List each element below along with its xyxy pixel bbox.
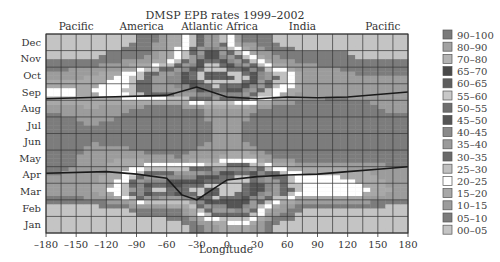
heat-cell (235, 129, 243, 133)
heat-cell (227, 167, 235, 171)
heat-cell (182, 117, 190, 121)
heat-cell (114, 117, 122, 121)
heat-cell (84, 134, 92, 138)
heat-cell (400, 38, 408, 42)
heat-cell (385, 51, 393, 55)
heat-cell (144, 163, 152, 167)
heat-cell (167, 109, 175, 113)
heat-cell (144, 96, 152, 100)
heat-cell (310, 158, 318, 162)
heat-cell (121, 129, 129, 133)
heat-cell (106, 192, 114, 196)
heat-cell (340, 138, 348, 142)
heat-cell (378, 104, 386, 108)
heat-cell (265, 138, 273, 142)
heat-cell (167, 104, 175, 108)
heat-cell (61, 113, 69, 117)
heat-cell (280, 59, 288, 63)
heat-cell (295, 42, 303, 46)
epb-rate-chart: DMSP EPB rates 1999–2002 PacificAmericaA… (0, 0, 500, 262)
heat-cell (348, 175, 356, 179)
heat-cell (212, 208, 220, 212)
heat-cell (325, 158, 333, 162)
heat-cell (84, 71, 92, 75)
heat-cell (99, 104, 107, 108)
heat-cell (355, 129, 363, 133)
heat-cell (265, 75, 273, 79)
heat-cell (325, 75, 333, 79)
heat-cell (325, 104, 333, 108)
heat-cell (129, 59, 137, 63)
heat-cell (272, 42, 280, 46)
heat-cell (295, 187, 303, 191)
heat-cell (287, 216, 295, 220)
heat-cell (182, 163, 190, 167)
heat-cell (235, 142, 243, 146)
heat-cell (355, 42, 363, 46)
heat-cell (84, 187, 92, 191)
heat-cell (212, 167, 220, 171)
heat-cell (385, 84, 393, 88)
heat-cell (400, 129, 408, 133)
heat-cell (182, 200, 190, 204)
heat-cell (393, 46, 401, 50)
heat-cell (355, 109, 363, 113)
heat-cell (265, 204, 273, 208)
heat-cell (280, 67, 288, 71)
heat-cell (84, 192, 92, 196)
heat-cell (197, 46, 205, 50)
heat-cell (144, 150, 152, 154)
heat-cell (219, 51, 227, 55)
heat-cell (197, 96, 205, 100)
heat-cell (197, 204, 205, 208)
heat-cell (189, 212, 197, 216)
heat-cell (257, 183, 265, 187)
heat-cell (348, 42, 356, 46)
heat-cell (91, 167, 99, 171)
heat-cell (318, 100, 326, 104)
heat-cell (129, 75, 137, 79)
heat-cell (280, 142, 288, 146)
heat-cell (219, 125, 227, 129)
heat-cell (333, 167, 341, 171)
heat-cell (348, 80, 356, 84)
heat-cell (54, 129, 62, 133)
heat-cell (272, 225, 280, 229)
heat-cell (227, 59, 235, 63)
heat-cell (400, 146, 408, 150)
heat-cell (318, 63, 326, 67)
heat-cell (242, 192, 250, 196)
heat-cell (242, 154, 250, 158)
heat-cell (265, 158, 273, 162)
heat-cell (219, 34, 227, 38)
heat-cell (219, 154, 227, 158)
heat-cell (167, 121, 175, 125)
heat-cell (144, 192, 152, 196)
heat-cell (46, 125, 54, 129)
heat-cell (182, 63, 190, 67)
heat-cell (99, 75, 107, 79)
heat-cell (378, 125, 386, 129)
heat-cell (325, 200, 333, 204)
heat-cell (129, 42, 137, 46)
heat-cell (84, 183, 92, 187)
heat-cell (182, 129, 190, 133)
heat-cell (400, 34, 408, 38)
heat-cell (400, 200, 408, 204)
heat-cell (355, 75, 363, 79)
heat-cell (219, 63, 227, 67)
heat-cell (54, 88, 62, 92)
heat-cell (378, 208, 386, 212)
heat-cell (46, 55, 54, 59)
heat-cell (393, 150, 401, 154)
heat-cell (265, 59, 273, 63)
heat-cell (370, 150, 378, 154)
heat-cell (189, 134, 197, 138)
heat-cell (219, 138, 227, 142)
heat-cell (333, 71, 341, 75)
heat-cell (137, 129, 145, 133)
heat-cell (167, 71, 175, 75)
heat-cell (144, 187, 152, 191)
heat-cell (400, 113, 408, 117)
heat-cell (174, 171, 182, 175)
